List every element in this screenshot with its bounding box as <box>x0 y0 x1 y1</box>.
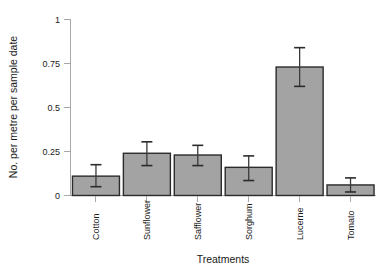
y-tick-label-2: 0.5 <box>47 103 60 113</box>
bar-chart-figure: 0 0.25 0.5 0.75 1 No. per metre per samp… <box>0 0 383 271</box>
x-tick-label-safflower: Safflower <box>193 203 203 240</box>
y-tick-label-1: 0.25 <box>42 147 60 157</box>
x-tick-label-lucerne: Lucerne <box>295 207 305 240</box>
chart-background <box>0 0 383 271</box>
y-tick-label-3: 0.75 <box>42 59 60 69</box>
y-tick-label-4: 1 <box>55 15 60 25</box>
x-tick-label-sorghum: Sorghum <box>244 203 254 240</box>
x-axis-title: Treatments <box>197 253 250 265</box>
x-tick-label-cotton: Cotton <box>91 213 101 240</box>
x-tick-label-sunflower: Sunflower <box>142 200 152 240</box>
x-tick-label-tomato: Tomato <box>346 210 356 240</box>
y-tick-label-0: 0 <box>55 191 60 201</box>
chart-canvas: 0 0.25 0.5 0.75 1 No. per metre per samp… <box>0 0 383 271</box>
y-axis-title: No. per metre per sample date <box>7 36 19 179</box>
